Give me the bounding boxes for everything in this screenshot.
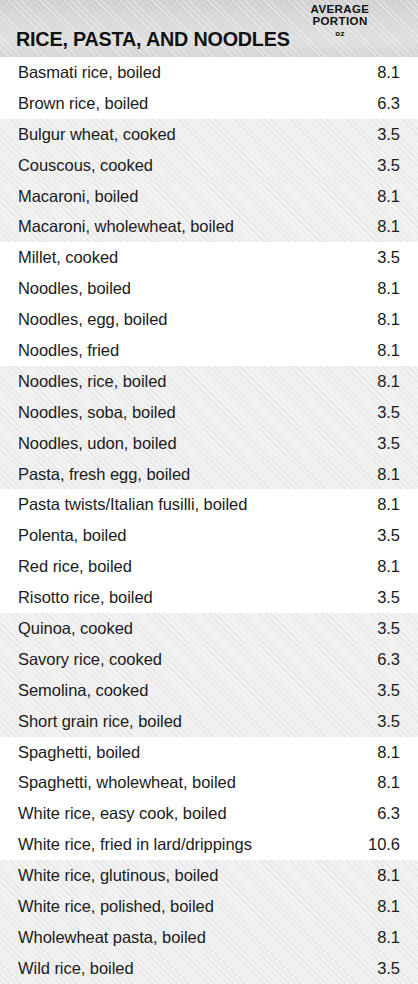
row-food-label: Noodles, rice, boiled xyxy=(18,372,166,391)
table-row: Brown rice, boiled6.3 xyxy=(0,88,418,119)
table-row: Noodles, fried8.1 xyxy=(0,335,418,366)
table-row: Semolina, cooked3.5 xyxy=(0,675,418,706)
row-food-label: Risotto rice, boiled xyxy=(18,588,153,607)
table-row: Noodles, soba, boiled3.5 xyxy=(0,397,418,428)
table-row: Wholewheat pasta, boiled8.1 xyxy=(0,922,418,953)
row-food-label: Millet, cooked xyxy=(18,248,118,267)
table-row: Risotto rice, boiled3.5 xyxy=(0,582,418,613)
row-food-label: Macaroni, wholewheat, boiled xyxy=(18,217,234,236)
table-row: Macaroni, boiled8.1 xyxy=(0,181,418,212)
table-row: Couscous, cooked3.5 xyxy=(0,150,418,181)
row-portion-value: 8.1 xyxy=(348,557,400,576)
column-header-average-portion: AVERAGE PORTION oz xyxy=(280,4,400,39)
table-row: Quinoa, cooked3.5 xyxy=(0,613,418,644)
row-portion-value: 8.1 xyxy=(348,187,400,206)
page-title: RICE, PASTA, AND NOODLES xyxy=(16,27,290,51)
row-food-label: Noodles, fried xyxy=(18,341,119,360)
row-food-label: Wild rice, boiled xyxy=(18,959,134,978)
row-portion-value: 3.5 xyxy=(348,588,400,607)
row-food-label: Pasta twists/Italian fusilli, boiled xyxy=(18,495,247,514)
row-portion-value: 8.1 xyxy=(348,279,400,298)
table-row: Short grain rice, boiled3.5 xyxy=(0,706,418,737)
row-food-label: Macaroni, boiled xyxy=(18,187,138,206)
row-portion-value: 3.5 xyxy=(348,156,400,175)
row-portion-value: 8.1 xyxy=(348,217,400,236)
row-food-label: Noodles, udon, boiled xyxy=(18,434,177,453)
row-portion-value: 3.5 xyxy=(348,125,400,144)
row-food-label: Noodles, boiled xyxy=(18,279,131,298)
row-food-label: Spaghetti, wholewheat, boiled xyxy=(18,773,236,792)
row-portion-value: 6.3 xyxy=(348,804,400,823)
row-food-label: White rice, fried in lard/drippings xyxy=(18,835,252,854)
table-row: Noodles, udon, boiled3.5 xyxy=(0,428,418,459)
row-food-label: White rice, glutinous, boiled xyxy=(18,866,218,885)
row-portion-value: 8.1 xyxy=(348,310,400,329)
table-row: Pasta twists/Italian fusilli, boiled8.1 xyxy=(0,489,418,520)
row-portion-value: 3.5 xyxy=(348,434,400,453)
row-portion-value: 3.5 xyxy=(348,959,400,978)
table-row: Wild rice, boiled3.5 xyxy=(0,953,418,984)
row-portion-value: 6.3 xyxy=(348,94,400,113)
row-food-label: White rice, polished, boiled xyxy=(18,897,214,916)
table-row: White rice, polished, boiled8.1 xyxy=(0,891,418,922)
table-row: Noodles, egg, boiled8.1 xyxy=(0,304,418,335)
table-header: RICE, PASTA, AND NOODLES AVERAGE PORTION… xyxy=(0,0,418,57)
row-food-label: Semolina, cooked xyxy=(18,681,148,700)
row-food-label: Noodles, egg, boiled xyxy=(18,310,167,329)
table-row: Pasta, fresh egg, boiled8.1 xyxy=(0,459,418,490)
row-portion-value: 3.5 xyxy=(348,712,400,731)
row-portion-value: 6.3 xyxy=(348,650,400,669)
row-portion-value: 8.1 xyxy=(348,773,400,792)
row-portion-value: 8.1 xyxy=(348,743,400,762)
table-body: Basmati rice, boiled8.1Brown rice, boile… xyxy=(0,57,418,984)
row-portion-value: 8.1 xyxy=(348,928,400,947)
row-food-label: Pasta, fresh egg, boiled xyxy=(18,465,190,484)
table-row: Polenta, boiled3.5 xyxy=(0,520,418,551)
row-portion-value: 8.1 xyxy=(348,897,400,916)
row-food-label: Quinoa, cooked xyxy=(18,619,133,638)
row-portion-value: 8.1 xyxy=(348,495,400,514)
column-header-unit: oz xyxy=(280,30,400,38)
row-food-label: Brown rice, boiled xyxy=(18,94,148,113)
row-food-label: Wholewheat pasta, boiled xyxy=(18,928,206,947)
column-header-line-portion: PORTION xyxy=(280,16,400,28)
row-portion-value: 10.6 xyxy=(348,835,400,854)
table-row: Bulgur wheat, cooked3.5 xyxy=(0,119,418,150)
row-portion-value: 3.5 xyxy=(348,526,400,545)
table-row: Millet, cooked3.5 xyxy=(0,242,418,273)
row-portion-value: 8.1 xyxy=(348,866,400,885)
table-row: Spaghetti, boiled8.1 xyxy=(0,737,418,768)
table-row: Spaghetti, wholewheat, boiled8.1 xyxy=(0,767,418,798)
table-row: White rice, fried in lard/drippings10.6 xyxy=(0,829,418,860)
row-portion-value: 3.5 xyxy=(348,403,400,422)
table-row: Noodles, rice, boiled8.1 xyxy=(0,366,418,397)
column-header-line-average: AVERAGE xyxy=(280,4,400,16)
table-row: Macaroni, wholewheat, boiled8.1 xyxy=(0,211,418,242)
table-row: Noodles, boiled8.1 xyxy=(0,273,418,304)
row-food-label: Bulgur wheat, cooked xyxy=(18,125,176,144)
table-row: White rice, easy cook, boiled6.3 xyxy=(0,798,418,829)
row-portion-value: 3.5 xyxy=(348,248,400,267)
table-row: Savory rice, cooked6.3 xyxy=(0,644,418,675)
row-food-label: Spaghetti, boiled xyxy=(18,743,140,762)
table-row: Red rice, boiled8.1 xyxy=(0,551,418,582)
row-portion-value: 3.5 xyxy=(348,681,400,700)
row-portion-value: 8.1 xyxy=(348,341,400,360)
row-portion-value: 8.1 xyxy=(348,63,400,82)
row-food-label: Savory rice, cooked xyxy=(18,650,162,669)
row-food-label: Short grain rice, boiled xyxy=(18,712,182,731)
row-portion-value: 8.1 xyxy=(348,465,400,484)
table-row: White rice, glutinous, boiled8.1 xyxy=(0,860,418,891)
row-food-label: Red rice, boiled xyxy=(18,557,132,576)
row-food-label: Noodles, soba, boiled xyxy=(18,403,176,422)
row-portion-value: 8.1 xyxy=(348,372,400,391)
row-food-label: Polenta, boiled xyxy=(18,526,126,545)
table-row: Basmati rice, boiled8.1 xyxy=(0,57,418,88)
row-portion-value: 3.5 xyxy=(348,619,400,638)
row-food-label: White rice, easy cook, boiled xyxy=(18,804,227,823)
row-food-label: Basmati rice, boiled xyxy=(18,63,161,82)
row-food-label: Couscous, cooked xyxy=(18,156,153,175)
